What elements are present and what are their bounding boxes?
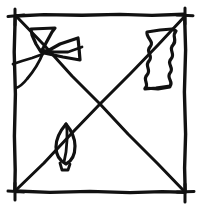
frame-right-edge: [184, 15, 185, 192]
diagonals-group: [15, 16, 185, 191]
frame-bottom-edge: [16, 191, 185, 193]
leaf-pod-inner-vein: [64, 140, 67, 162]
wavy-banner-outline: [145, 29, 176, 89]
frame-top-edge: [16, 14, 184, 16]
leaf-pod-stem: [66, 124, 67, 139]
sketch-canvas: Hand-drawn square frame with diagonals a…: [0, 0, 203, 213]
glyph-bowtie: [13, 28, 82, 88]
frame-left-edge: [14, 16, 15, 191]
sketch-drawing: [0, 0, 203, 213]
glyph-wavy-banner: [145, 29, 176, 89]
